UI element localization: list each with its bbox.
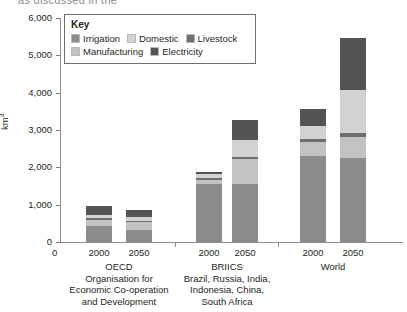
- x-tick-year-label: 2000: [293, 247, 333, 258]
- legend-swatch-icon: [71, 47, 80, 56]
- bar-segment: [340, 137, 366, 158]
- legend-item-label: Manufacturing: [83, 45, 143, 58]
- bar-segment: [300, 156, 326, 241]
- bar-segment: [300, 126, 326, 139]
- y-tick-mark: [56, 93, 60, 94]
- y-tick-mark: [56, 130, 60, 131]
- bar-stack: [86, 206, 112, 242]
- bar-segment: [232, 184, 258, 241]
- bar-segment: [300, 109, 326, 126]
- x-group-separator-tick: [175, 242, 176, 247]
- legend-item: Irrigation: [71, 32, 120, 45]
- bar-segment: [126, 222, 152, 229]
- bar-segment: [232, 120, 258, 141]
- bar-segment: [340, 90, 366, 133]
- legend-swatch-icon: [150, 47, 159, 56]
- x-tick-year-label: 2050: [333, 247, 373, 258]
- legend-swatch-icon: [127, 34, 136, 43]
- y-tick-label: 0: [12, 237, 52, 247]
- legend-rows: IrrigationDomesticLivestockManufacturing…: [71, 32, 249, 58]
- y-tick-label: 6,000: [12, 13, 52, 23]
- y-tick-label: 3,000: [12, 125, 52, 135]
- x-group-label: World: [263, 261, 403, 273]
- bar-stack: [196, 172, 222, 242]
- legend-row: IrrigationDomesticLivestock: [71, 32, 249, 45]
- y-axis-label: km3: [0, 113, 10, 130]
- bar-segment: [340, 38, 366, 90]
- bar-segment: [340, 158, 366, 242]
- legend-item: Livestock: [186, 32, 238, 45]
- legend-row: ManufacturingElectricity: [71, 45, 249, 58]
- bar-segment: [232, 159, 258, 184]
- chart-legend: Key IrrigationDomesticLivestockManufactu…: [64, 14, 256, 64]
- x-tick-year-label: 2000: [189, 247, 229, 258]
- legend-item-label: Livestock: [198, 32, 238, 45]
- x-group-sublabel-line: Indonesia, China,: [157, 284, 297, 296]
- legend-item-label: Irrigation: [83, 32, 120, 45]
- y-tick-mark: [56, 242, 60, 243]
- x-axis-line: [60, 242, 403, 243]
- legend-item-label: Electricity: [162, 45, 203, 58]
- legend-title: Key: [71, 19, 249, 31]
- legend-item-label: Domestic: [139, 32, 179, 45]
- legend-item: Electricity: [150, 45, 203, 58]
- y-tick-mark: [56, 205, 60, 206]
- bar-stack: [232, 120, 258, 242]
- bar-segment: [126, 230, 152, 242]
- bar-stack: [126, 210, 152, 242]
- bar-segment: [126, 210, 152, 217]
- y-tick-label: 1,000: [12, 200, 52, 210]
- bar-segment: [86, 220, 112, 227]
- x-tick-year-label: 2000: [79, 247, 119, 258]
- x-group-sublabel-line: Brazil, Russia, India,: [157, 273, 297, 285]
- chart-plot-area: km3 6,0005,0004,0003,0002,0001,0000 2000…: [0, 0, 407, 312]
- bar-stack: [300, 109, 326, 242]
- y-tick-label: 2,000: [12, 162, 52, 172]
- bar-segment: [86, 226, 112, 242]
- legend-swatch-icon: [71, 34, 80, 43]
- x-group-name: World: [263, 261, 403, 273]
- x-axis-origin-label: 0: [52, 247, 57, 258]
- bar-segment: [300, 142, 326, 157]
- y-axis-line: [60, 18, 61, 242]
- y-tick-mark: [56, 167, 60, 168]
- bar-segment: [196, 184, 222, 242]
- x-group-separator-tick: [278, 242, 279, 247]
- y-tick-label: 4,000: [12, 88, 52, 98]
- x-tick-year-label: 2050: [225, 247, 265, 258]
- bar-segment: [86, 206, 112, 215]
- bar-segment: [232, 140, 258, 156]
- x-tick-year-label: 2050: [119, 247, 159, 258]
- y-tick-mark: [56, 18, 60, 19]
- x-group-sublabel-line: South Africa: [157, 296, 297, 308]
- bar-stack: [340, 38, 366, 242]
- y-tick-label: 5,000: [12, 50, 52, 60]
- legend-swatch-icon: [186, 34, 195, 43]
- legend-item: Domestic: [127, 32, 179, 45]
- y-tick-mark: [56, 55, 60, 56]
- legend-item: Manufacturing: [71, 45, 143, 58]
